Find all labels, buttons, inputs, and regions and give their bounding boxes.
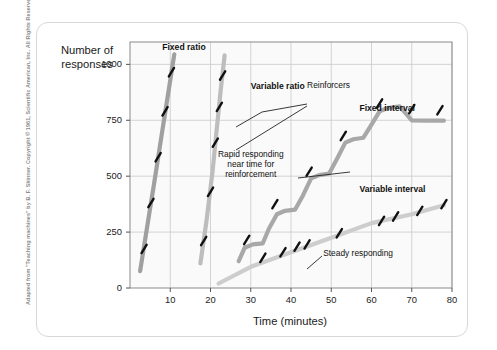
annotation-rapid-line3: reinforcement — [218, 169, 284, 179]
x-tick-label: 10 — [157, 294, 183, 305]
series-label-fixed-ratio: Fixed ratio — [162, 42, 205, 52]
figure-container: Adapted from "Teaching machines" by B. F… — [0, 0, 497, 350]
series-label-variable-interval: Variable interval — [359, 184, 425, 194]
y-tick-label: 1000 — [82, 58, 122, 69]
x-tick-label: 60 — [359, 294, 385, 305]
y-tick-label: 250 — [82, 226, 122, 237]
series-label-fixed-interval: Fixed interval — [359, 103, 414, 113]
y-tick-label: 500 — [82, 170, 122, 181]
annotation-reinforcers: Reinforcers — [307, 80, 350, 90]
annotation-steady-responding: Steady responding — [323, 248, 393, 258]
x-tick-label: 20 — [198, 294, 224, 305]
annotation-rapid-line2: near time for — [218, 159, 284, 169]
y-tick-label: 0 — [82, 282, 122, 293]
annotation-rapid-responding: Rapid responding near time for reinforce… — [218, 149, 284, 180]
series-label-variable-ratio: Variable ratio — [251, 81, 305, 91]
x-tick-label: 70 — [399, 294, 425, 305]
x-tick-label: 50 — [318, 294, 344, 305]
annotation-rapid-line1: Rapid responding — [218, 149, 284, 159]
y-tick-label: 750 — [82, 114, 122, 125]
x-tick-label: 40 — [278, 294, 304, 305]
x-tick-label: 30 — [238, 294, 264, 305]
x-tick-label: 80 — [439, 294, 465, 305]
